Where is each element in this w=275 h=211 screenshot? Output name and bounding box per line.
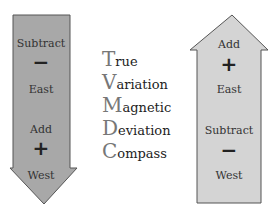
mnemonic-deviation: Deviation [102, 118, 171, 141]
label-east: East [194, 83, 264, 96]
mnemonic-true: True [102, 49, 171, 72]
plus-sign: + [194, 54, 264, 74]
label-subtract: Subtract [6, 37, 76, 50]
label-subtract: Subtract [194, 124, 264, 137]
mnemonic-magnetic: Magnetic [102, 95, 171, 118]
label-add: Add [6, 123, 76, 136]
label-west: West [6, 169, 76, 182]
mnemonic-compass: Compass [102, 141, 171, 164]
label-west: West [194, 169, 264, 182]
minus-sign: − [6, 52, 76, 72]
mnemonic-variation: Variation [102, 72, 171, 95]
label-east: East [6, 83, 76, 96]
plus-sign: + [6, 138, 76, 158]
tvmdc-mnemonic: True Variation Magnetic Deviation Compas… [102, 49, 171, 164]
label-add: Add [194, 38, 264, 51]
minus-sign: − [194, 140, 264, 160]
